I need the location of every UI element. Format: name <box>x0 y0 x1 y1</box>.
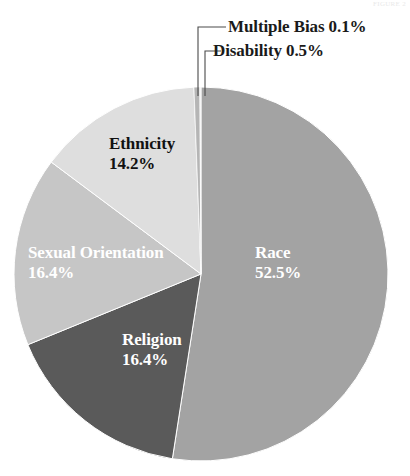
slice-label-ethnicity-name: Ethnicity <box>109 134 175 153</box>
slice-label-ethnicity-percent: 14.2% <box>109 154 175 174</box>
slice-label-race-name: Race <box>255 243 290 262</box>
pie-chart-canvas <box>0 0 410 476</box>
pie-chart: FIGURE 2 Multiple Bias 0.1% Disability 0… <box>0 0 410 476</box>
slice-label-religion-name: Religion <box>122 330 182 349</box>
callout-leader-lines <box>198 27 226 96</box>
slice-label-sexual-orientation: Sexual Orientation 16.4% <box>28 243 164 283</box>
slice-label-race-percent: 52.5% <box>255 263 301 283</box>
slice-label-sexual-orientation-name: Sexual Orientation <box>28 243 164 262</box>
leader-line-multiple-bias <box>198 27 226 96</box>
slice-label-ethnicity: Ethnicity 14.2% <box>109 134 175 174</box>
slice-label-religion-percent: 16.4% <box>122 350 182 370</box>
slice-label-religion: Religion 16.4% <box>122 330 182 370</box>
slice-label-sexual-orientation-percent: 16.4% <box>28 263 164 283</box>
callout-label-disability: Disability 0.5% <box>213 41 324 61</box>
callout-label-multiple-bias: Multiple Bias 0.1% <box>228 17 366 37</box>
slice-label-race: Race 52.5% <box>255 243 301 283</box>
